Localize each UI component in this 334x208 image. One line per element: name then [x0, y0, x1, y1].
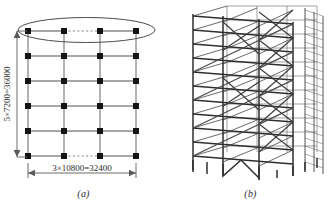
joint-nodes: [25, 28, 139, 159]
dashed-beam-segments: [64, 31, 100, 156]
panel-a-caption: (a): [0, 188, 167, 199]
frame-elevation-drawing: 5×7200=36000 3×10800=32400: [0, 0, 167, 188]
horizontal-dimension-label: 3×10800=32400: [52, 163, 112, 173]
panel-b-3d-model: (b): [167, 0, 334, 208]
panel-b-caption: (b): [167, 188, 334, 199]
frame-3d-wireframe-drawing: [167, 0, 334, 188]
beam-members: [28, 31, 136, 156]
vertical-dimension-label: 5×7200=36000: [2, 66, 12, 122]
vertical-dimension-line: [17, 31, 27, 157]
frame3d-depth-members: [193, 6, 293, 166]
panel-a-elevation: 5×7200=36000 3×10800=32400 (a): [0, 0, 167, 208]
column-members: [28, 31, 136, 156]
figure-root: 5×7200=36000 3×10800=32400 (a): [0, 0, 334, 208]
frame3d-front-columns: [193, 14, 293, 180]
